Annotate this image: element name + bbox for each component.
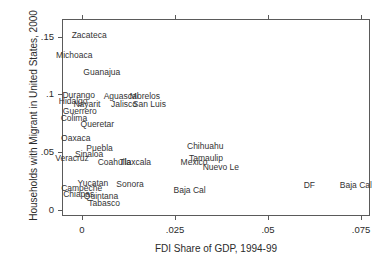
data-point-label: Oaxaca [61,134,90,143]
data-point-label: Tlaxcala [119,158,151,167]
data-point-label: Baja Cal [340,180,372,189]
x-tick-mark [82,216,83,220]
x-tick-mark [175,216,176,220]
x-tick-mark-top [175,15,176,19]
x-tick-mark-top [82,15,83,19]
data-point-label: Sonora [116,180,143,189]
x-tick-mark [361,216,362,220]
data-point-label: Nuevo Le [203,163,239,172]
data-point-label: Zacateca [72,31,107,40]
data-point-label: San Luis [133,99,166,108]
scatter-plot-figure: 0.025.05.075 0.05.1.15 ZacatecaMichoacaG… [0,0,386,266]
x-tick-label: 0 [62,224,102,235]
y-tick-mark [58,210,62,211]
data-point-label: Chihuahu [187,141,223,150]
data-point-label: Queretar [81,120,115,129]
x-axis-title: FDI Share of GDP, 1994-99 [62,243,370,254]
x-tick-label: .075 [341,224,381,235]
x-tick-mark-top [361,15,362,19]
y-axis-title: Households with Migrant in United States… [28,1,39,231]
data-point-label: Veracruz [55,153,89,162]
data-point-label: Michoaca [56,50,92,59]
x-tick-mark [268,216,269,220]
data-point-label: Guanajua [83,67,120,76]
x-tick-label: .05 [248,224,288,235]
x-tick-mark-top [268,15,269,19]
data-point-label: DF [304,180,315,189]
data-point-label: Baja Cal [174,185,206,194]
data-point-label: Tabasco [88,198,120,207]
x-tick-label: .025 [155,224,195,235]
y-tick-mark [58,37,62,38]
